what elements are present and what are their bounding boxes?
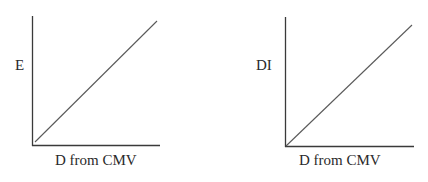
right-y-axis-label: DI — [256, 58, 272, 73]
right-x-axis-label: D from CMV — [299, 153, 381, 168]
left-trend-line — [35, 21, 157, 142]
panel-right — [285, 17, 414, 147]
right-trend-line — [286, 25, 412, 146]
figure: E D from CMV DI D from CMV — [0, 0, 428, 182]
left-y-axis-label: E — [15, 58, 24, 73]
left-x-axis-label: D from CMV — [55, 153, 137, 168]
panel-left — [32, 16, 160, 146]
